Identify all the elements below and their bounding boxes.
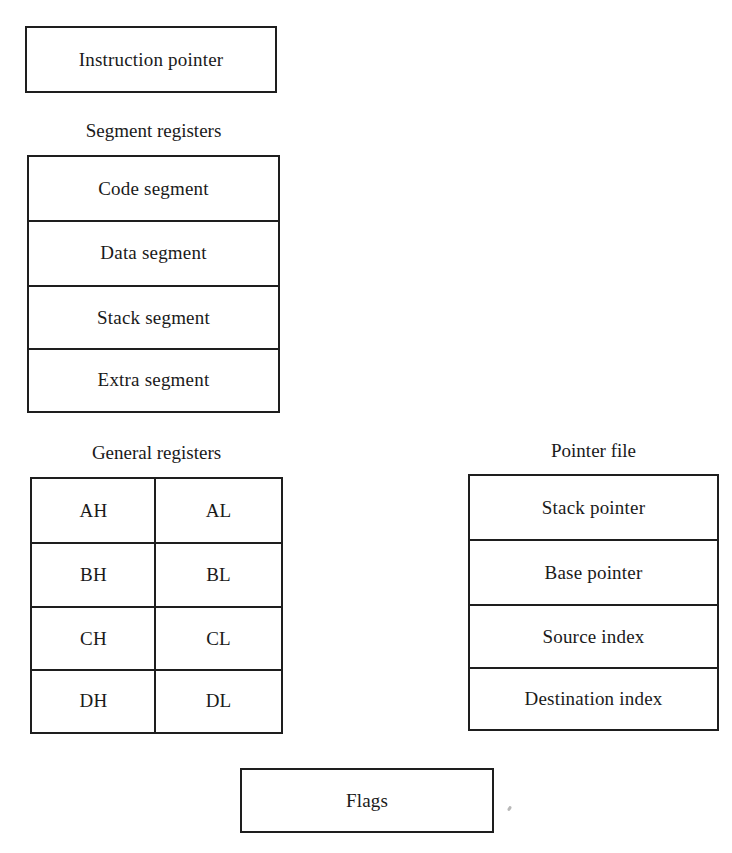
register-bh: BH [32, 543, 155, 607]
pointer-file-box: Stack pointer Base pointer Source index … [468, 474, 719, 731]
segment-register-row: Data segment [29, 221, 278, 285]
register-bl: BL [156, 543, 281, 607]
general-registers-title: General registers [30, 442, 283, 464]
pointer-file-row: Source index [470, 605, 717, 668]
scan-speck [507, 806, 512, 812]
register-dh: DH [32, 670, 155, 732]
segment-register-row: Extra segment [29, 349, 278, 411]
register-cl: CL [156, 607, 281, 670]
segment-register-row: Code segment [29, 157, 278, 221]
instruction-pointer-label: Instruction pointer [27, 28, 275, 91]
register-dl: DL [156, 670, 281, 732]
general-registers-box: AH AL BH BL CH CL DH DL [30, 477, 283, 734]
pointer-file-row: Base pointer [470, 540, 717, 605]
register-al: AL [156, 479, 281, 543]
register-ch: CH [32, 607, 155, 670]
instruction-pointer-box: Instruction pointer [25, 26, 277, 93]
pointer-file-row: Destination index [470, 668, 717, 729]
segment-register-row: Stack segment [29, 286, 278, 349]
segment-registers-title: Segment registers [27, 120, 280, 142]
pointer-file-title: Pointer file [468, 440, 719, 462]
segment-registers-box: Code segment Data segment Stack segment … [27, 155, 280, 413]
pointer-file-row: Stack pointer [470, 476, 717, 540]
flags-box: Flags [240, 768, 494, 833]
flags-label: Flags [242, 770, 492, 831]
register-ah: AH [32, 479, 155, 543]
